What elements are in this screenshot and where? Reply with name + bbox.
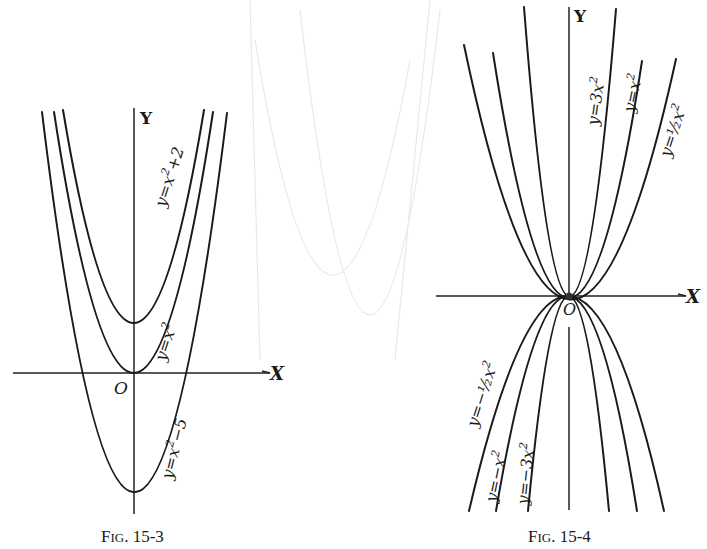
x-axis-label: X bbox=[685, 286, 701, 307]
y-axis-label: Y bbox=[139, 108, 153, 128]
curve-x2 bbox=[493, 53, 642, 298]
label-x2: y=x2 bbox=[149, 320, 181, 364]
svg-text:y=−3x2: y=−3x2 bbox=[511, 442, 538, 507]
svg-text:y=x2: y=x2 bbox=[617, 72, 646, 115]
origin-label: O bbox=[563, 300, 576, 319]
origin-point bbox=[566, 293, 573, 300]
x-axis-label: X bbox=[269, 363, 285, 384]
svg-text:y=x2−5: y=x2−5 bbox=[155, 416, 191, 482]
figure-caption: FIG. 15-4 bbox=[528, 527, 591, 546]
bleed-through bbox=[250, 0, 440, 360]
origin-label: O bbox=[114, 378, 128, 398]
label-x2: y=x2 bbox=[617, 72, 646, 115]
svg-text:y=x2+2: y=x2+2 bbox=[149, 144, 188, 210]
label-x2-minus-5: y=x2−5 bbox=[155, 416, 191, 482]
svg-text:y=x2: y=x2 bbox=[149, 320, 181, 364]
figure-15-4: Y X O y=3x2 y=x2 y=½x2 y=−½x2 y= bbox=[436, 6, 701, 546]
figures-canvas: Y X O y=x2+2 y=x2 y=x2−5 FIG. 15-3 bbox=[0, 0, 707, 549]
figure-15-3: Y X O y=x2+2 y=x2 y=x2−5 FIG. 15-3 bbox=[13, 108, 285, 546]
label-neg-half-x2: y=−½x2 bbox=[461, 359, 502, 431]
label-3x2: y=3x2 bbox=[581, 75, 609, 127]
curve-3x2 bbox=[524, 7, 616, 297]
label-x2-plus-2: y=x2+2 bbox=[149, 144, 188, 210]
svg-text:y=3x2: y=3x2 bbox=[581, 75, 609, 127]
y-axis-label: Y bbox=[573, 6, 587, 26]
figure-caption: FIG. 15-3 bbox=[101, 527, 164, 546]
svg-text:y=−½x2: y=−½x2 bbox=[461, 359, 502, 431]
label-neg-3x2: y=−3x2 bbox=[511, 442, 538, 507]
